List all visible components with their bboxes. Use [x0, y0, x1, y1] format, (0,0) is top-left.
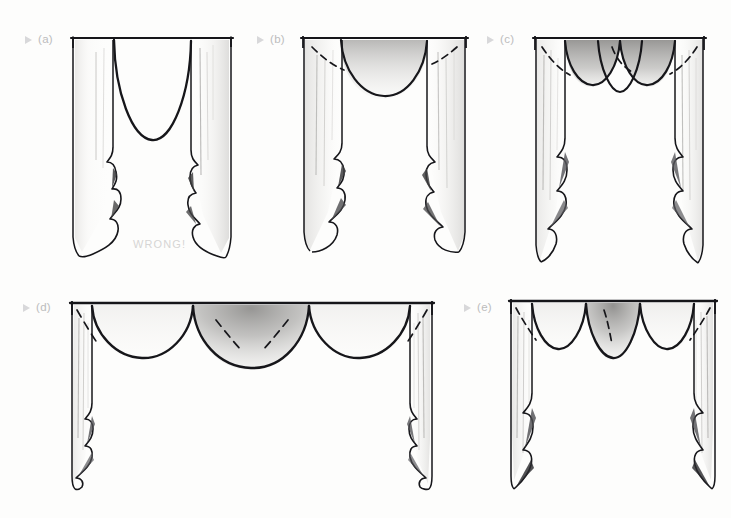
figure-d-drawing	[0, 288, 480, 518]
figure-b-ink	[301, 36, 468, 252]
figure-d-ink	[70, 301, 434, 489]
play-triangle-icon	[23, 304, 30, 312]
figure-a: (a)	[0, 0, 260, 280]
figure-b: (b)	[232, 0, 492, 280]
figure-e-ink	[509, 299, 717, 489]
figure-c-label: (c)	[500, 34, 514, 46]
figure-c: (c)	[464, 0, 731, 290]
figure-a-ink	[71, 37, 233, 258]
figure-d-label: (d)	[36, 302, 51, 314]
figure-e-drawing	[455, 288, 731, 518]
figure-d: (d)	[0, 288, 480, 518]
play-triangle-icon	[464, 304, 471, 312]
play-triangle-icon	[25, 36, 32, 44]
play-triangle-icon	[257, 36, 264, 44]
figure-e-label: (e)	[477, 302, 492, 314]
figure-b-label: (b)	[270, 34, 285, 46]
play-triangle-icon	[487, 36, 494, 44]
figure-e: (e)	[455, 288, 731, 518]
illustration-page: (a)	[0, 0, 731, 518]
wrong-annotation: WRONG!	[133, 238, 186, 250]
figure-a-label: (a)	[38, 34, 53, 46]
figure-c-ink	[533, 36, 706, 263]
